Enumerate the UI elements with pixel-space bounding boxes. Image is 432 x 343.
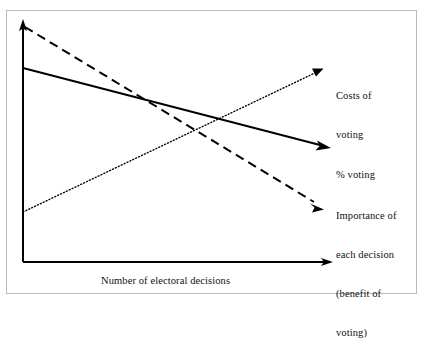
series-costs-of-voting bbox=[23, 69, 324, 213]
label-importance-line-2: each decision bbox=[336, 248, 396, 261]
label-costs-line-1: Costs of bbox=[336, 89, 372, 102]
label-importance-line-1: Importance of bbox=[336, 209, 396, 222]
percent-arrowhead-icon bbox=[316, 141, 332, 151]
costs-arrowhead-icon bbox=[312, 69, 324, 77]
importance-arrowhead-icon bbox=[310, 204, 324, 213]
label-importance-of-each-decision: Importance of each decision (benefit of … bbox=[336, 183, 396, 343]
y-axis bbox=[19, 19, 27, 262]
series-importance bbox=[25, 27, 324, 213]
x-axis-label: Number of electoral decisions bbox=[101, 274, 230, 287]
x-axis bbox=[23, 258, 333, 266]
label-importance-line-3: (benefit of bbox=[336, 287, 396, 300]
label-importance-line-4: voting) bbox=[336, 326, 396, 339]
label-percent-line-1: % voting bbox=[336, 168, 375, 181]
label-costs-line-2: voting bbox=[336, 128, 372, 141]
